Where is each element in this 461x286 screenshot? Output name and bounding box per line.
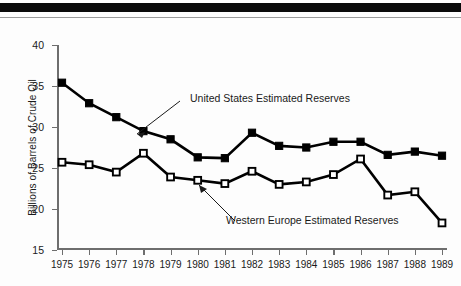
x-tick-label: 1980	[187, 259, 209, 270]
x-tick-label: 1977	[105, 259, 127, 270]
y-tick-label: 15	[32, 244, 44, 256]
x-tick	[171, 250, 172, 255]
chart-page: Billions of Barrels of Crude Oil 4035302…	[0, 0, 461, 286]
x-tick	[361, 250, 362, 255]
x-tick-label: 1984	[295, 259, 317, 270]
x-tick-label: 1976	[78, 259, 100, 270]
x-tick	[252, 250, 253, 255]
leader-line-western-europe	[57, 45, 447, 250]
x-tick	[415, 250, 416, 255]
x-tick-label: 1978	[132, 259, 154, 270]
x-tick	[198, 250, 199, 255]
top-divider-rule	[0, 17, 461, 18]
x-tick-label: 1983	[268, 259, 290, 270]
x-tick-label: 1986	[349, 259, 371, 270]
x-tick-label: 1975	[51, 259, 73, 270]
y-tick: 15	[52, 250, 57, 251]
x-tick	[143, 250, 144, 255]
x-tick	[388, 250, 389, 255]
x-tick	[279, 250, 280, 255]
y-tick-label: 20	[32, 203, 44, 215]
y-tick-label: 25	[32, 162, 44, 174]
x-tick-label: 1989	[431, 259, 453, 270]
x-tick-label: 1988	[404, 259, 426, 270]
x-tick	[225, 250, 226, 255]
y-tick-label: 40	[32, 39, 44, 51]
y-tick-label: 30	[32, 121, 44, 133]
top-banner-bar	[0, 3, 461, 12]
x-tick	[442, 250, 443, 255]
x-tick-label: 1981	[214, 259, 236, 270]
x-tick	[333, 250, 334, 255]
x-tick	[89, 250, 90, 255]
x-tick-label: 1985	[322, 259, 344, 270]
x-tick-label: 1982	[241, 259, 263, 270]
x-tick	[62, 250, 63, 255]
y-tick-label: 35	[32, 80, 44, 92]
y-axis-title: Billions of Barrels of Crude Oil	[27, 48, 38, 248]
x-tick	[116, 250, 117, 255]
x-tick-label: 1979	[159, 259, 181, 270]
x-tick-label: 1987	[377, 259, 399, 270]
x-tick	[306, 250, 307, 255]
